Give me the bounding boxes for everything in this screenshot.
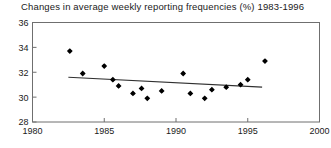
data-point-core: [81, 72, 84, 75]
data-point-core: [160, 89, 163, 92]
data-point-core: [239, 83, 242, 86]
data-point-core: [225, 85, 228, 88]
x-tick-label: 1985: [94, 126, 114, 136]
axis-frame: [33, 23, 320, 123]
data-point-markers: [67, 48, 268, 101]
scatter-plot: 2830323436 19801985199019952000: [0, 0, 331, 148]
y-tick-label: 34: [18, 43, 28, 53]
data-point-core: [146, 97, 149, 100]
data-point-core: [103, 64, 106, 67]
data-point-core: [140, 87, 143, 90]
y-axis-tick-labels: 2830323436: [18, 18, 28, 128]
x-tick-label: 1990: [166, 126, 186, 136]
y-tick-label: 30: [18, 93, 28, 103]
data-point-core: [68, 49, 71, 52]
data-point-core: [210, 88, 213, 91]
y-axis-ticks: [33, 23, 37, 123]
data-point-core: [117, 84, 120, 87]
x-axis-ticks: [33, 118, 320, 122]
data-point-core: [111, 78, 114, 81]
data-point-core: [263, 59, 266, 62]
trend-line: [68, 77, 262, 87]
x-tick-label: 1980: [22, 126, 42, 136]
chart-figure: Changes in average weekly reporting freq…: [0, 0, 331, 148]
data-point-core: [246, 78, 249, 81]
x-tick-label: 2000: [309, 126, 329, 136]
y-tick-label: 36: [18, 18, 28, 28]
data-point-core: [189, 92, 192, 95]
x-tick-label: 1995: [238, 126, 258, 136]
x-axis-tick-labels: 19801985199019952000: [22, 126, 329, 136]
y-tick-label: 32: [18, 68, 28, 78]
data-point-core: [131, 92, 134, 95]
data-point-core: [203, 97, 206, 100]
data-point-core: [181, 72, 184, 75]
